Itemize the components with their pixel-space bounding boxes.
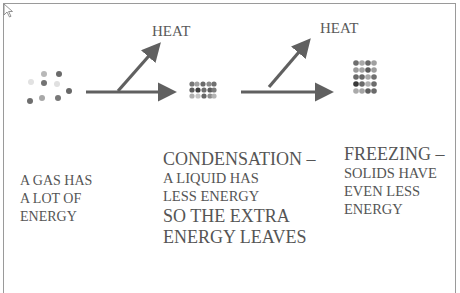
freezing-line-1: SOLIDS HAVE (344, 166, 445, 184)
freezing-title: FREEZING – (344, 145, 445, 166)
condensation-extra-1: SO THE EXTRA (163, 207, 316, 228)
gas-line-3: ENERGY (20, 210, 92, 228)
condensation-line-1: A LIQUID HAS (163, 171, 316, 189)
condensation-extra-2: ENERGY LEAVES (163, 228, 316, 249)
freezing-line-3: ENERGY (344, 202, 445, 220)
condensation-description: CONDENSATION – A LIQUID HAS LESS ENERGY … (163, 150, 316, 249)
condensation-line-2: LESS ENERGY (163, 189, 316, 207)
arrow-gas-to-liquid (86, 49, 168, 92)
heat-label-1: HEAT (152, 23, 190, 39)
heat-label-2: HEAT (320, 20, 358, 36)
gas-line-1: A GAS HAS (20, 174, 92, 192)
freezing-line-2: EVEN LESS (344, 184, 445, 202)
liquid-particles (189, 81, 216, 98)
state-change-diagram: HEAT HEAT (0, 0, 460, 140)
gas-description: A GAS HAS A LOT OF ENERGY (20, 174, 92, 228)
freezing-description: FREEZING – SOLIDS HAVE EVEN LESS ENERGY (344, 145, 445, 220)
gas-line-2: A LOT OF (20, 192, 92, 210)
solid-particles (353, 60, 377, 94)
gas-particles (27, 71, 72, 104)
condensation-title: CONDENSATION – (163, 150, 316, 171)
arrow-liquid-to-solid (241, 45, 325, 92)
